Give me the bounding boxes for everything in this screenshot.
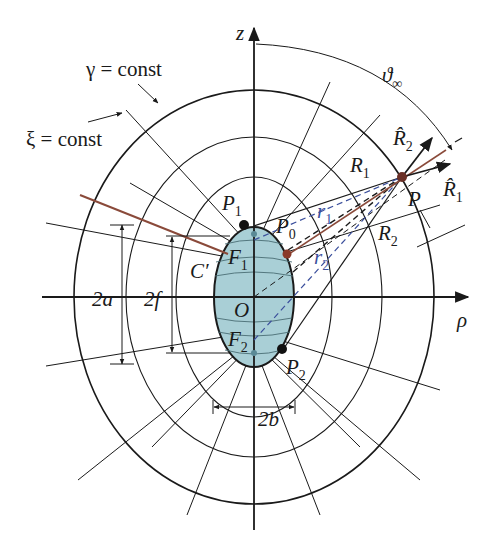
gamma-pointer [138,84,158,103]
P-label: P [407,187,421,211]
R1hat-vector [402,164,450,177]
point-P1 [239,220,249,230]
rho-axis-label: ρ [456,308,467,332]
focus-F1 [251,231,257,237]
gamma-label: γ = const [85,57,162,81]
dim-2b-label: 2b [258,407,279,431]
theta-infinity-label: ϑ∞ [382,63,402,91]
R1hat-label: R̂1 [442,177,463,205]
theta-infinity-arc [256,44,452,150]
C-prime-label: C′ [190,259,209,283]
P2-label: P2 [285,355,306,383]
xi-label: ξ = const [26,127,102,151]
xi-curve-ray [80,195,228,254]
r2-label: r2 [314,245,329,273]
dim-2f-label: 2f [144,287,164,311]
r1-label: r1 [317,199,332,227]
point-P0 [283,250,292,259]
point-P2 [277,344,287,354]
O-label: O [234,298,249,322]
xi-pointer [88,113,122,122]
R2hat-label: R̂2 [392,126,413,154]
R2-label: R2 [377,221,398,249]
focus-F2 [251,350,257,356]
z-axis-label: z [235,21,244,45]
P1-label: P1 [221,191,242,219]
point-P [397,172,407,182]
P0-label: P0 [275,214,296,242]
dim-2a-label: 2a [92,287,113,311]
R1-label: R1 [349,153,370,181]
diagram-canvas: z ρ γ = const ξ = const ϑ∞ R̂2 R̂1 R1 R2… [0,0,496,550]
